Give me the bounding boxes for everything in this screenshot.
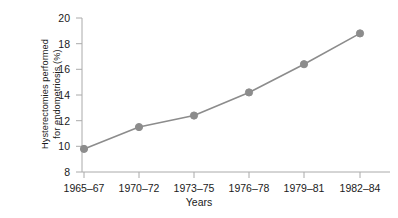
data-point <box>300 61 307 68</box>
x-axis-ticks <box>84 172 360 178</box>
data-point <box>356 30 363 37</box>
y-tick-label: 10 <box>48 140 70 152</box>
y-tick-label: 8 <box>48 166 70 178</box>
y-tick-label: 18 <box>48 38 70 50</box>
data-point <box>135 123 142 130</box>
x-tick-label: 1973–75 <box>174 182 215 194</box>
data-point <box>80 145 87 152</box>
x-axis-label: Years <box>0 196 398 208</box>
y-tick-label: 14 <box>48 89 70 101</box>
x-tick-label: 1965–67 <box>64 182 105 194</box>
y-tick-label: 16 <box>48 63 70 75</box>
chart-figure: Hysterectomies performed for endometrios… <box>0 0 398 218</box>
x-tick-label: 1970–72 <box>119 182 160 194</box>
data-point <box>190 112 197 119</box>
y-tick-label: 20 <box>48 12 70 24</box>
x-tick-label: 1979–81 <box>284 182 325 194</box>
y-tick-label: 12 <box>48 115 70 127</box>
data-point <box>245 89 252 96</box>
x-tick-label: 1982–84 <box>340 182 381 194</box>
x-tick-label: 1976–78 <box>229 182 270 194</box>
data-series-line <box>84 33 360 148</box>
